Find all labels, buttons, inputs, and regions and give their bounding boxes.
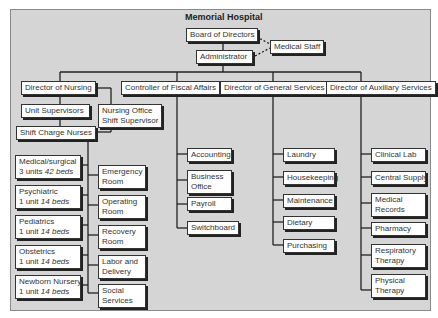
unit-name: Newborn Nursery	[19, 277, 77, 287]
service-line2: Delivery	[102, 267, 142, 277]
medical-staff-box: Medical Staff	[270, 40, 324, 54]
box-line2: Therapy	[375, 256, 422, 266]
service-box: Operating Room	[98, 195, 146, 219]
unit-detail: 1 unit 14 beds	[19, 257, 77, 267]
aux-pharmacy-box: Pharmacy	[371, 222, 426, 236]
nursing-office-box: Nursing Office Shift Supervisor	[98, 104, 162, 128]
fiscal-accounting-box: Accounting	[187, 148, 232, 162]
service-line1: Operating	[102, 197, 142, 207]
unit-detail: 1 unit 14 beds	[19, 227, 77, 237]
nursing-office-line1: Nursing Office	[102, 106, 158, 116]
unit-name: Pediatrics	[19, 217, 77, 227]
general-housekeeping-box: Housekeeping	[283, 171, 335, 185]
service-box: Labor and Delivery	[98, 255, 146, 279]
box-line1: Respiratory	[375, 246, 422, 256]
service-line1: Labor and	[102, 257, 142, 267]
unit-name: Obstetrics	[19, 247, 77, 257]
unit-box: Pediatrics 1 unit 14 beds	[15, 215, 81, 239]
service-box: Recovery Room	[98, 225, 146, 249]
controller-fiscal-box: Controller of Fiscal Affairs	[121, 81, 220, 95]
unit-name: Medical/surgical	[19, 157, 77, 167]
director-auxiliary-box: Director of Auxiliary Services	[326, 81, 436, 95]
general-dietary-box: Dietary	[283, 216, 335, 230]
fiscal-payroll-box: Payroll	[187, 197, 232, 211]
aux-clinical-lab-box: Clinical Lab	[371, 148, 426, 162]
service-line2: Room	[102, 207, 142, 217]
fiscal-business-office-box: Business Office	[187, 170, 232, 194]
unit-detail: 1 unit 14 beds	[19, 287, 77, 297]
general-purchasing-box: Purchasing	[283, 239, 335, 253]
service-box: Emergency Room	[98, 165, 146, 189]
unit-supervisors-box: Unit Supervisors	[21, 104, 90, 118]
box-line1: Business	[191, 172, 228, 182]
nursing-office-line2: Shift Supervisor	[102, 116, 158, 126]
service-line1: Social	[102, 286, 142, 296]
unit-detail: 1 unit 14 beds	[19, 197, 77, 207]
service-line2: Room	[102, 177, 142, 187]
unit-box: Newborn Nursery 1 unit 14 beds	[15, 275, 81, 299]
chart-title: Memorial Hospital	[185, 12, 263, 22]
aux-central-supply-box: Central Supply	[371, 171, 426, 185]
box-line1: Medical	[375, 195, 422, 205]
service-box: Social Services	[98, 284, 146, 308]
box-line1: Physical	[375, 276, 422, 286]
service-line1: Recovery	[102, 227, 142, 237]
service-line1: Emergency	[102, 167, 142, 177]
fiscal-switchboard-box: Switchboard	[187, 221, 239, 235]
director-general-box: Director of General Services	[220, 81, 328, 95]
service-line2: Room	[102, 237, 142, 247]
box-line2: Therapy	[375, 286, 422, 296]
unit-box: Obstetrics 1 unit 14 beds	[15, 245, 81, 269]
unit-name: Psychiatric	[19, 187, 77, 197]
aux-physical-therapy-box: Physical Therapy	[371, 274, 426, 298]
box-line2: Records	[375, 205, 422, 215]
unit-detail: 3 units 42 beds	[19, 167, 77, 177]
shift-charge-nurses-box: Shift Charge Nurses	[16, 126, 96, 140]
board-of-directors-box: Board of Directors	[186, 28, 258, 42]
general-maintenance-box: Maintenance	[283, 194, 335, 208]
unit-box: Psychiatric 1 unit 14 beds	[15, 185, 81, 209]
director-nursing-box: Director of Nursing	[21, 81, 96, 95]
aux-respiratory-therapy-box: Respiratory Therapy	[371, 244, 426, 268]
general-laundry-box: Laundry	[283, 148, 335, 162]
service-line2: Services	[102, 296, 142, 306]
administrator-box: Administrator	[196, 50, 253, 64]
aux-medical-records-box: Medical Records	[371, 193, 426, 217]
box-line2: Office	[191, 182, 228, 192]
unit-box: Medical/surgical 3 units 42 beds	[15, 155, 81, 179]
